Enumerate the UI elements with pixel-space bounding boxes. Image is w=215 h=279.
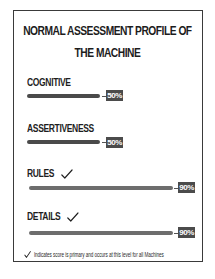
row-label-text: DETAILS (27, 211, 60, 222)
value-badge-details: 90% (178, 227, 195, 238)
value-badge-cognitive: 50% (106, 90, 123, 101)
bar-cognitive (27, 94, 100, 98)
row-label-text: ASSERTIVENESS (27, 123, 94, 134)
row-label-assertiveness: ASSERTIVENESS (27, 123, 94, 134)
row-label-text: COGNITIVE (27, 77, 71, 88)
bar-rules (29, 186, 173, 190)
footnote-text: Indicates score is primary and occurs at… (34, 251, 164, 258)
row-label-rules: RULES (27, 168, 73, 179)
row-label-cognitive: COGNITIVE (27, 77, 71, 88)
value-badge-assertiveness: 50% (106, 137, 123, 148)
row-label-details: DETAILS (27, 211, 79, 222)
bar-details (29, 231, 173, 235)
checkmark-icon (24, 251, 31, 258)
row-label-text: RULES (27, 168, 54, 179)
checkmark-icon (61, 169, 73, 179)
chart-title: NORMAL ASSESSMENT PROFILE OF THE MACHINE (19, 20, 195, 64)
footnote: Indicates score is primary and occurs at… (24, 251, 164, 258)
chart-title-line-2: THE MACHINE (19, 42, 195, 64)
value-badge-rules: 90% (178, 182, 195, 193)
bar-assertiveness (27, 140, 100, 144)
checkmark-icon (67, 212, 79, 222)
chart-title-line-1: NORMAL ASSESSMENT PROFILE OF (19, 20, 195, 42)
